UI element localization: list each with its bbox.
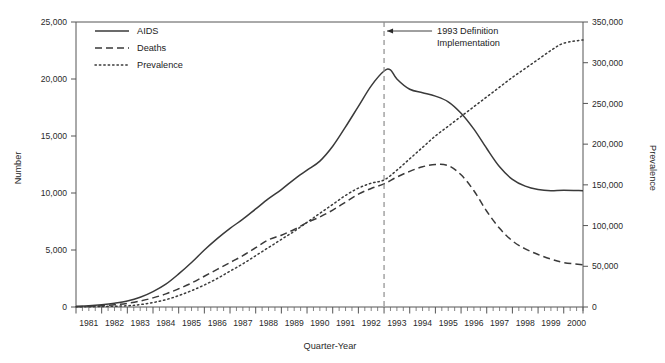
x-tick-label-year: 1985: [182, 318, 201, 328]
y-tick-label-left: 10,000: [41, 188, 68, 198]
x-tick-label-year: 1983: [131, 318, 150, 328]
x-tick-label-year: 1995: [439, 318, 458, 328]
x-axis-title: Quarter-Year: [304, 341, 357, 351]
y-tick-label-right: 100,000: [592, 221, 623, 231]
x-tick-label-year: 1991: [336, 318, 355, 328]
legend-group: AIDSDeathsPrevalence: [95, 26, 183, 70]
tick-labels-group: 05,00010,00015,00020,00025,000050,000100…: [41, 17, 624, 328]
x-tick-label-year: 1999: [541, 318, 560, 328]
x-tick-label-year: 1994: [413, 318, 432, 328]
annotation-text-line-1: 1993 Definition: [437, 26, 498, 36]
y-tick-label-right: 350,000: [592, 17, 623, 27]
series-line-prevalence: [76, 40, 583, 307]
annotation-arrow-head: [387, 28, 393, 33]
y-axis-title-right: Prevalence: [648, 145, 658, 191]
legend-label-deaths: Deaths: [137, 43, 167, 53]
x-tick-label-year: 1981: [79, 318, 98, 328]
x-tick-label-year: 1996: [464, 318, 483, 328]
x-tick-label-year: 1993: [387, 318, 406, 328]
x-tick-label-year: 1990: [310, 318, 329, 328]
y-tick-label-right: 0: [592, 302, 597, 312]
series-line-aids: [76, 69, 583, 306]
y-tick-label-left: 25,000: [41, 17, 68, 27]
y-tick-label-left: 20,000: [41, 74, 68, 84]
y-tick-label-right: 200,000: [592, 139, 623, 149]
x-tick-label-year: 1987: [233, 318, 252, 328]
x-tick-label-year: 1998: [516, 318, 535, 328]
legend-label-aids: AIDS: [137, 26, 158, 36]
y-tick-label-left: 5,000: [45, 245, 67, 255]
x-tick-label-year: 1997: [490, 318, 509, 328]
chart-canvas: 05,00010,00015,00020,00025,000050,000100…: [0, 0, 665, 363]
aids-surveillance-chart: 05,00010,00015,00020,00025,000050,000100…: [0, 0, 665, 363]
y-tick-label-right: 250,000: [592, 99, 623, 109]
y-tick-label-right: 150,000: [592, 180, 623, 190]
x-tick-label-year: 1992: [362, 318, 381, 328]
legend-label-prevalence: Prevalence: [137, 60, 183, 70]
y-tick-label-left: 15,000: [41, 131, 68, 141]
x-tick-label-year: 1989: [285, 318, 304, 328]
y-tick-label-right: 300,000: [592, 58, 623, 68]
y-axis-title-left: Number: [13, 152, 23, 185]
x-tick-label-year: 1986: [208, 318, 227, 328]
y-tick-label-left: 0: [62, 302, 67, 312]
x-tick-label-year: 2000: [567, 318, 586, 328]
data-series-group: [76, 40, 583, 307]
x-tick-label-year: 1988: [259, 318, 278, 328]
annotation-text-line-2: Implementation: [437, 38, 500, 48]
x-tick-label-year: 1984: [156, 318, 175, 328]
series-line-deaths: [76, 164, 583, 306]
x-tick-label-year: 1982: [105, 318, 124, 328]
y-tick-label-right: 50,000: [592, 261, 619, 271]
